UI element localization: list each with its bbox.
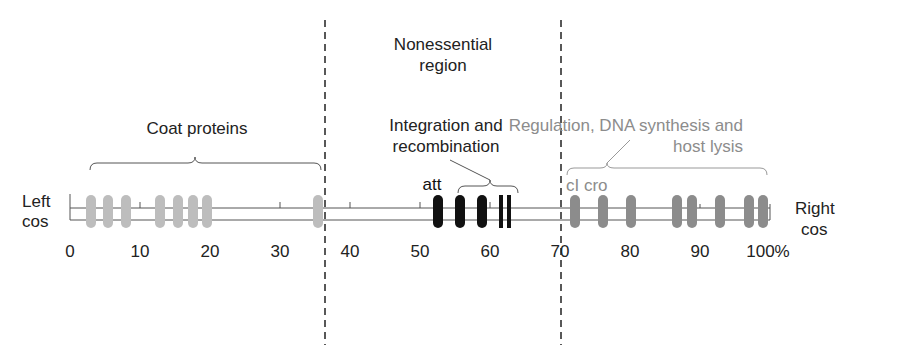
regulation-pointer [607, 140, 630, 163]
nonessential-label-1: Nonessential [394, 35, 492, 54]
integration-brace [458, 180, 518, 193]
regulation-genes [570, 195, 768, 228]
genome-map: Nonessential region Coat proteins Integr… [0, 0, 923, 360]
integration-pointer [450, 160, 490, 180]
tick-70: 70 [551, 242, 570, 261]
cI-cro-label: cI cro [566, 176, 608, 195]
tick-10: 10 [131, 242, 150, 261]
nonessential-label-2: region [419, 56, 466, 75]
tick-0: 0 [65, 242, 74, 261]
tick-40: 40 [341, 242, 360, 261]
left-cos-label-2: cos [22, 212, 48, 231]
tick-100: 100% [746, 242, 789, 261]
integration-genes [433, 195, 511, 228]
integration-label-2: recombination [393, 137, 500, 156]
right-cos-label-2: cos [801, 220, 827, 239]
left-cos-label-1: Left [22, 192, 51, 211]
tick-80: 80 [621, 242, 640, 261]
tick-50: 50 [411, 242, 430, 261]
coat-proteins-label: Coat proteins [146, 119, 247, 138]
integration-label-1: Integration and [389, 116, 502, 135]
tick-60: 60 [481, 242, 500, 261]
tick-30: 30 [271, 242, 290, 261]
right-cos-label-1: Right [795, 199, 835, 218]
axis-ticks [140, 202, 700, 208]
regulation-label-2: host lysis [673, 137, 743, 156]
coat-brace [90, 157, 321, 170]
axis-labels: 0 10 20 30 40 50 60 70 80 90 100% [65, 242, 789, 261]
regulation-label-1: Regulation, DNA synthesis and [509, 116, 743, 135]
tick-90: 90 [691, 242, 710, 261]
att-label: att [423, 175, 442, 194]
regulation-brace [567, 163, 767, 175]
tick-20: 20 [201, 242, 220, 261]
coat-genes [86, 195, 323, 228]
